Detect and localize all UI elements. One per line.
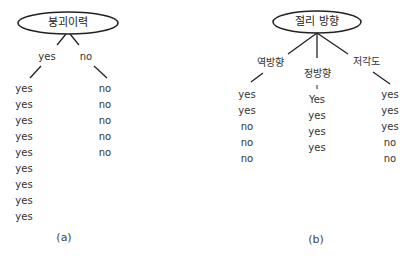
tree-a-edge-yes-leaf [30, 66, 41, 78]
list-item: yes [308, 124, 325, 140]
list-item: yes [381, 87, 398, 103]
tree-b-edge-reverse-leaf [251, 73, 263, 82]
list-item: no [99, 113, 111, 129]
tree-b-root-label: 절리 방향 [295, 16, 339, 28]
list-item: no [384, 151, 396, 167]
tree-a-branch-no-label: no [80, 51, 92, 63]
list-item: yes [238, 87, 255, 103]
tree-b-branch-forward-label: 정방향 [304, 68, 331, 80]
list-item: yes [15, 113, 32, 129]
tree-b-branch-reverse-label: 역방향 [257, 57, 284, 69]
list-item: yes [15, 145, 32, 161]
tree-b-forward-leaf-list: Yes yes yes yes [308, 92, 325, 156]
tree-b-reverse-leaf-list: yes yes no no no [238, 87, 255, 167]
list-item: no [99, 145, 111, 161]
list-item: yes [381, 103, 398, 119]
tree-a-yes-leaf-list: yes yes yes yes yes yes yes yes yes [15, 81, 32, 225]
tree-a-no-leaf-list: no no no no no [99, 81, 111, 161]
list-item: yes [15, 129, 32, 145]
list-item: yes [308, 108, 325, 124]
tree-a-edge-no [70, 34, 79, 45]
list-item: yes [238, 103, 255, 119]
list-item: yes [15, 177, 32, 193]
tree-a-root-label: 붕괴이력 [48, 17, 88, 29]
list-item: yes [15, 161, 32, 177]
list-item: no [99, 81, 111, 97]
list-item: no [241, 119, 253, 135]
list-item: no [99, 129, 111, 145]
list-item: no [99, 97, 111, 113]
list-item: Yes [309, 92, 325, 108]
tree-a-branch-yes-label: yes [38, 51, 55, 63]
list-item: yes [15, 209, 32, 225]
list-item: yes [15, 193, 32, 209]
tree-a-edge-yes [57, 34, 66, 45]
tree-a-edge-no-leaf [94, 66, 107, 78]
list-item: yes [15, 81, 32, 97]
tree-b-edge-reverse [288, 33, 317, 54]
list-item: no [241, 135, 253, 151]
list-item: no [384, 135, 396, 151]
list-item: yes [15, 97, 32, 113]
list-item: no [241, 151, 253, 167]
list-item: yes [381, 119, 398, 135]
figure-caption-b: (b) [308, 234, 324, 246]
figure-caption-a: (a) [56, 232, 71, 244]
tree-b-edge-low-angle-leaf [373, 72, 390, 84]
list-item: yes [308, 140, 325, 156]
tree-b-branch-low-angle-label: 저각도 [353, 56, 380, 68]
tree-connector-lines [0, 0, 406, 256]
tree-b-low-angle-leaf-list: yes yes yes no no [381, 87, 398, 167]
tree-b-edge-low-angle [317, 33, 348, 54]
